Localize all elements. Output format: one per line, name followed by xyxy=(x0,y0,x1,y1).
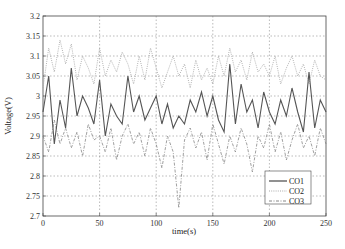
x-tick-label: 250 xyxy=(320,219,332,228)
y-tick-label: 3.15 xyxy=(26,32,40,41)
y-tick-label: 3.05 xyxy=(26,72,40,81)
x-axis-label: time(s) xyxy=(172,226,196,236)
x-tick-label: 50 xyxy=(96,219,104,228)
y-tick-label: 2.75 xyxy=(26,192,40,201)
x-tick-label: 0 xyxy=(41,219,45,228)
y-tick-label: 2.95 xyxy=(26,112,40,121)
y-tick-label: 2.85 xyxy=(26,152,40,161)
legend-label: CO2 xyxy=(289,187,304,196)
y-tick-label: 3.1 xyxy=(30,52,40,61)
legend-label: CO3 xyxy=(289,197,304,206)
voltage-line-chart: 2.72.752.82.852.92.9533.053.13.153.2 050… xyxy=(0,0,345,249)
x-tick-label: 100 xyxy=(150,219,162,228)
y-tick-label: 2.9 xyxy=(30,132,40,141)
x-tick-label: 200 xyxy=(263,219,275,228)
y-tick-label: 3 xyxy=(36,92,40,101)
y-tick-label: 3.2 xyxy=(30,12,40,21)
y-tick-label: 2.7 xyxy=(30,212,40,221)
legend-label: CO1 xyxy=(289,177,304,186)
legend: CO1CO2CO3 xyxy=(265,171,311,206)
y-axis-label: Voltage(V) xyxy=(3,97,13,135)
x-tick-label: 150 xyxy=(207,219,219,228)
y-tick-label: 2.8 xyxy=(30,172,40,181)
